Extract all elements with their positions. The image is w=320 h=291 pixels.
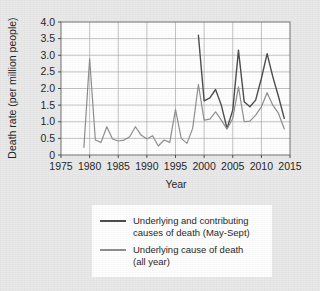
y-axis-label: Death rate (per million people): [6, 17, 18, 158]
x-tick-label: 1990: [135, 160, 159, 172]
x-tick-label: 1995: [164, 160, 188, 172]
legend-label-0-line1: Underlying and contributing: [133, 215, 249, 226]
x-axis-label: Year: [165, 178, 187, 190]
x-tick-label: 1975: [49, 160, 73, 172]
x-tick-label: 1980: [78, 160, 102, 172]
legend-label-1-line2: (all year): [133, 256, 170, 267]
x-tick-label: 2015: [278, 160, 302, 172]
y-tick-label: 2.5: [40, 65, 55, 77]
y-tick-label: 0.5: [40, 132, 55, 144]
y-tick-label: 3.0: [40, 49, 55, 61]
x-tick-label: 2005: [221, 160, 245, 172]
y-axis-ticks: 00.51.01.52.02.53.03.54.0: [40, 16, 61, 161]
x-tick-label: 2010: [250, 160, 274, 172]
y-tick-label: 1.5: [40, 99, 55, 111]
x-axis-ticks: 197519801985199019952000200520102015: [49, 155, 302, 172]
legend-label-1-line1: Underlying cause of death: [133, 244, 243, 255]
legend-label-0-line2: causes of death (May-Sept): [133, 227, 250, 238]
x-tick-label: 1985: [107, 160, 131, 172]
y-tick-label: 0: [49, 149, 55, 161]
x-tick-label: 2000: [192, 160, 216, 172]
legend: Underlying and contributing causes of de…: [92, 205, 272, 277]
death-rate-line-chart: 00.51.01.52.02.53.03.54.0 19751980198519…: [0, 0, 320, 291]
y-tick-label: 1.0: [40, 115, 55, 127]
figure-container: 00.51.01.52.02.53.03.54.0 19751980198519…: [0, 0, 320, 291]
y-tick-label: 4.0: [40, 16, 55, 28]
y-tick-label: 2.0: [40, 82, 55, 94]
y-tick-label: 3.5: [40, 32, 55, 44]
